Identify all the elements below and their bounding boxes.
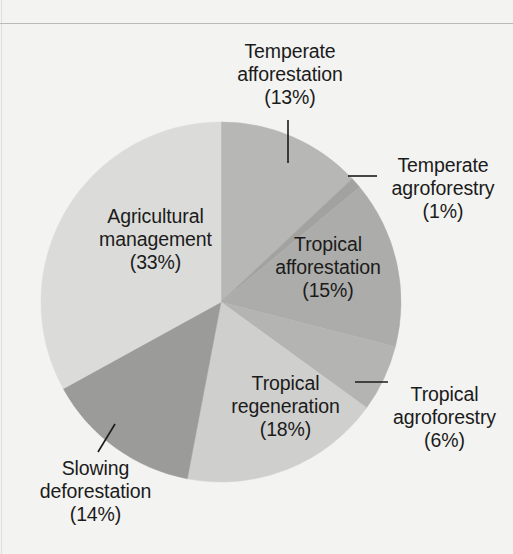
label-tropical-afforestation: Tropical afforestation (15%) [243,233,413,301]
label-slowing-deforestation: Slowing deforestation (14%) [3,457,188,525]
label-tropical-agroforestry: Tropical agroforestry (6%) [372,383,513,451]
label-temperate-afforestation: Temperate afforestation (13%) [205,40,375,108]
label-agricultural-management: Agricultural management (33%) [68,205,243,273]
label-tropical-regeneration: Tropical regeneration (18%) [198,372,373,440]
label-temperate-agroforestry: Temperate agroforestry (1%) [368,154,513,222]
pie-chart-figure: Temperate afforestation (13%) Temperate … [0,0,513,554]
